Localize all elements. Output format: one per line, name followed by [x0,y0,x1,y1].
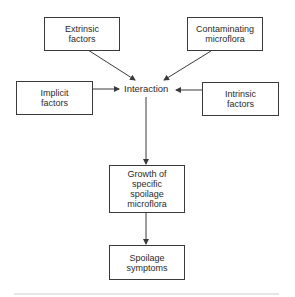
node-text-line: Growth of [127,169,167,179]
node-text-line: Spoilage [126,253,167,263]
node-implicit-factors: Implicitfactors [16,81,93,115]
node-text-line: factors [65,34,99,44]
node-text-line: spoilage [127,189,167,199]
node-text-line: microflora [196,34,254,44]
node-text-line: factors [225,99,256,109]
figure-caption-faint [14,293,279,295]
node-text-line: Intrinsic [225,89,256,99]
node-text-line: Contaminating [196,24,254,34]
node-text-line: symptoms [126,263,167,273]
node-text-line: Extrinsic [65,24,99,34]
node-interaction: Interaction [124,83,168,94]
node-text-line: Implicit [40,88,68,98]
edge-extrinsic-interaction [88,50,135,80]
node-intrinsic-factors: Intrinsicfactors [202,82,279,116]
node-text-line: microflora [127,199,167,209]
node-spoilage-symptoms: Spoilagesymptoms [109,245,185,280]
node-growth-specific-spoilage-microflora: Growth of specific spoilage microflora [109,165,185,213]
edge-contaminating-interaction [164,51,211,80]
node-text-line: specific [127,179,167,189]
node-extrinsic-factors: Extrinsicfactors [44,17,120,51]
node-contaminating-microflora: Contaminatingmicroflora [187,17,263,51]
node-text-line: factors [40,98,68,108]
